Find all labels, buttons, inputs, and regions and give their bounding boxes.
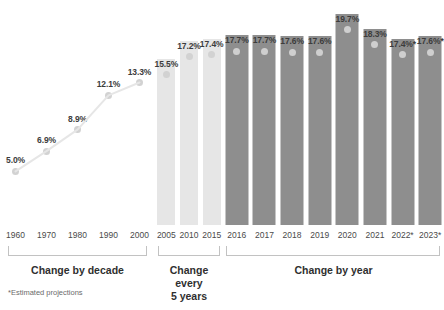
data-column: 17.2% <box>178 0 201 225</box>
data-column: 18.3% <box>361 0 389 225</box>
bar <box>419 36 442 225</box>
data-column: 17.4% <box>200 0 223 225</box>
x-axis-ticks-5years: 200520102015 <box>155 230 223 244</box>
data-point-marker <box>261 48 268 55</box>
caption-change-every-5-years: Change every5 years <box>155 262 223 296</box>
chart-panels: 5.0%6.9%8.9%12.1%13.3% 19601970198019902… <box>0 0 444 262</box>
value-label: 17.2% <box>177 41 201 51</box>
data-column: 17.7% <box>223 0 251 225</box>
caption-change-by-year: Change by year <box>223 262 444 296</box>
data-column: 17.6% <box>306 0 334 225</box>
x-tick-label: 2000 <box>124 230 155 244</box>
x-tick-label: 2016 <box>223 230 251 244</box>
x-tick-label: 2005 <box>155 230 178 244</box>
x-tick-label: 2018 <box>278 230 306 244</box>
group-bracket-decade <box>8 246 147 256</box>
plot-area-year: 17.7%17.7%17.6%17.6%19.7%18.3%17.4%*17.6… <box>223 0 444 225</box>
bar <box>203 39 221 225</box>
data-column: 17.7% <box>251 0 279 225</box>
bar <box>180 41 198 225</box>
x-tick-label: 2019 <box>306 230 334 244</box>
data-point-marker <box>427 49 434 56</box>
chart-container: 5.0%6.9%8.9%12.1%13.3% 19601970198019902… <box>0 0 444 310</box>
bar <box>363 29 386 225</box>
x-tick-label: 1970 <box>31 230 62 244</box>
series-year: 17.7%17.7%17.6%17.6%19.7%18.3%17.4%*17.6… <box>223 0 444 225</box>
footnote: *Estimated projections <box>8 288 83 297</box>
data-column: 15.5% <box>155 0 178 225</box>
panel-change-by-decade: 5.0%6.9%8.9%12.1%13.3% 19601970198019902… <box>0 0 155 262</box>
x-tick-label: 2023* <box>416 230 444 244</box>
bar <box>281 36 304 225</box>
trend-line <box>0 0 155 225</box>
group-bracket-5years <box>158 246 220 256</box>
bar <box>225 35 248 225</box>
value-label: 15.5% <box>155 59 179 69</box>
value-label: 17.4% <box>200 39 224 49</box>
value-label: 17.7% <box>253 35 277 45</box>
value-label: 17.4%* <box>389 39 416 49</box>
data-point-marker <box>186 53 193 60</box>
x-tick-label: 1980 <box>62 230 93 244</box>
x-tick-label: 1990 <box>93 230 124 244</box>
x-tick-label: 2010 <box>178 230 201 244</box>
x-axis-ticks-decade: 19601970198019902000 <box>0 230 155 244</box>
x-tick-label: 2017 <box>251 230 279 244</box>
value-label: 17.6%* <box>417 36 444 46</box>
panel-change-by-year: 17.7%17.7%17.6%17.6%19.7%18.3%17.4%*17.6… <box>223 0 444 262</box>
series-5years: 15.5%17.2%17.4% <box>155 0 223 225</box>
x-tick-label: 2020 <box>334 230 362 244</box>
data-column: 17.6%* <box>416 0 444 225</box>
value-label: 17.7% <box>225 35 249 45</box>
x-axis-ticks-year: 2016201720182019202020212022*2023* <box>223 230 444 244</box>
data-column: 17.4%* <box>389 0 417 225</box>
bar <box>336 14 359 225</box>
value-label: 17.6% <box>280 36 304 46</box>
data-column: 17.6% <box>278 0 306 225</box>
panel-change-every-5-years: 15.5%17.2%17.4% 200520102015 <box>155 0 223 262</box>
x-tick-label: 1960 <box>0 230 31 244</box>
x-tick-label: 2015 <box>200 230 223 244</box>
value-label: 18.3% <box>363 29 387 39</box>
plot-area-decade: 5.0%6.9%8.9%12.1%13.3% <box>0 0 155 225</box>
data-point-marker <box>289 49 296 56</box>
plot-area-5years: 15.5%17.2%17.4% <box>155 0 223 225</box>
bar <box>253 35 276 225</box>
x-tick-label: 2021 <box>361 230 389 244</box>
bar <box>157 59 175 225</box>
bar <box>391 39 414 225</box>
data-column: 19.7% <box>334 0 362 225</box>
x-tick-label: 2022* <box>389 230 417 244</box>
value-label: 17.6% <box>308 36 332 46</box>
value-label: 19.7% <box>336 14 360 24</box>
group-bracket-year <box>226 246 440 256</box>
bar <box>308 36 331 225</box>
